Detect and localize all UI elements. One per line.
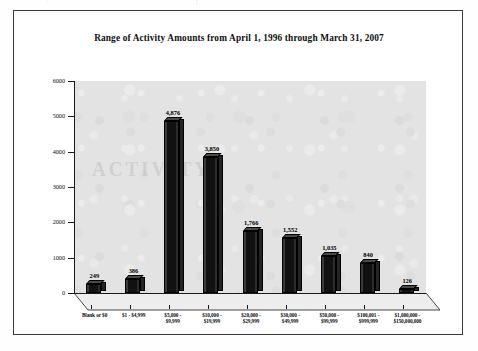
y-axis-tick — [68, 187, 74, 188]
bar-front-face — [125, 279, 140, 293]
y-axis-tick — [68, 116, 74, 117]
scanned-chart-page: · ¦ Range of Activity Amounts from April… — [0, 0, 478, 351]
bar: 3,850 — [203, 157, 218, 293]
bar-value-label: 840 — [363, 251, 373, 258]
bar-side-face — [140, 277, 145, 291]
y-axis-tick-label: 1000 — [53, 255, 65, 261]
bar-value-label: 4,876 — [166, 109, 180, 116]
x-axis-category-label: $20,000 - $29,999 — [231, 312, 270, 324]
x-axis-tick — [247, 305, 248, 309]
bar: 1,766 — [243, 231, 258, 293]
bar-front-face — [360, 263, 375, 293]
y-axis-tick-label: 2000 — [53, 219, 65, 225]
x-axis-category-label: $50,000 - $99,999 — [310, 312, 349, 324]
bar-value-label: 249 — [90, 272, 100, 279]
x-axis-tick — [130, 305, 131, 309]
bar: 126 — [399, 289, 414, 293]
bar: 1,552 — [282, 238, 297, 293]
bar-side-face — [179, 119, 184, 291]
x-axis-tick — [364, 305, 365, 309]
document-frame: Range of Activity Amounts from April 1, … — [13, 10, 463, 335]
bar-value-label: 126 — [402, 277, 412, 284]
scan-bleed-mark-left: · — [46, 0, 48, 6]
bar-front-face — [282, 238, 297, 293]
y-axis-tick — [68, 222, 74, 223]
chart-title: Range of Activity Amounts from April 1, … — [14, 33, 464, 43]
bar: 4,876 — [164, 121, 179, 293]
y-axis-tick-label: 3000 — [53, 184, 65, 190]
y-axis-tick — [68, 81, 74, 82]
x-axis-category-label: $1 - $4,999 — [114, 312, 153, 318]
y-axis-tick — [68, 152, 74, 153]
y-axis-tick-label: 4000 — [53, 149, 65, 155]
bar-side-face — [258, 229, 263, 291]
bar-value-label: 386 — [129, 267, 139, 274]
bar-value-label: 1,552 — [283, 226, 297, 233]
bar-front-face — [203, 157, 218, 293]
chart-plot-area: ACTIVITY 0100020003000400050006000 24938… — [60, 73, 432, 308]
bar-side-face — [414, 287, 419, 291]
bar-front-face — [243, 231, 258, 293]
bar-side-face — [297, 236, 302, 291]
y-axis-tick-label: 0 — [62, 290, 65, 296]
x-axis-category-label: $10,000 - $19,999 — [192, 312, 231, 324]
y-axis-line — [74, 81, 75, 293]
bar-front-face — [321, 256, 336, 293]
bar-side-face — [375, 261, 380, 291]
bar: 1,035 — [321, 256, 336, 293]
y-axis-tick-label: 5000 — [53, 113, 65, 119]
bar: 249 — [86, 284, 101, 293]
x-axis-tick — [325, 305, 326, 309]
scan-bleed-mark-right: ¦ — [196, 0, 197, 6]
bar: 840 — [360, 263, 375, 293]
x-axis-tick — [286, 305, 287, 309]
bar-side-face — [101, 282, 106, 291]
x-axis-category-label: $30,000 - $49,999 — [271, 312, 310, 324]
x-axis-category-label: $5,000 - $9,999 — [153, 312, 192, 324]
x-axis-tick — [403, 305, 404, 309]
bar-value-label: 1,035 — [322, 244, 336, 251]
bar-front-face — [399, 289, 414, 293]
bar-front-face — [164, 121, 179, 293]
x-axis-tick — [169, 305, 170, 309]
bar-side-face — [336, 254, 341, 291]
x-axis-line — [74, 293, 426, 294]
x-axis-tick — [91, 305, 92, 309]
y-axis-tick-label: 6000 — [53, 78, 65, 84]
bar-front-face — [86, 284, 101, 293]
x-axis-category-label: $100,001 - $999,999 — [349, 312, 388, 324]
x-axis-category-labels: Blank or $0$1 - $4,999$5,000 - $9,999$10… — [74, 305, 440, 327]
bar: 386 — [125, 279, 140, 293]
y-axis-tick — [68, 258, 74, 259]
bar-side-face — [218, 155, 223, 291]
x-axis-tick — [208, 305, 209, 309]
x-axis-category-label: Blank or $0 — [75, 312, 114, 318]
x-axis-category-label: $1,000,000 - $150,000,000 — [388, 312, 427, 324]
bar-value-label: 1,766 — [244, 219, 258, 226]
bar-value-label: 3,850 — [205, 145, 219, 152]
